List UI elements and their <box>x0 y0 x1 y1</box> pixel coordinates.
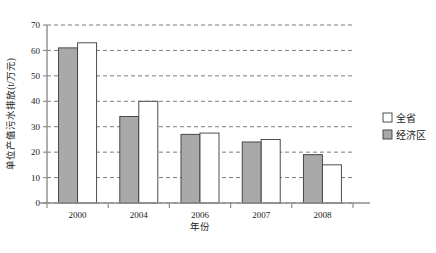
bar <box>322 165 341 203</box>
bar <box>200 133 219 203</box>
bar <box>120 117 139 203</box>
bar <box>181 134 200 203</box>
bar <box>261 139 280 203</box>
y-tick-label: 70 <box>31 20 41 30</box>
x-tick-label: 2000 <box>69 210 88 220</box>
x-tick-label: 2007 <box>252 210 271 220</box>
y-tick-label: 10 <box>31 173 41 183</box>
y-tick-label: 0 <box>36 198 41 208</box>
legend-label: 全省 <box>396 112 416 124</box>
legend-swatch <box>383 130 392 139</box>
y-tick-label: 30 <box>31 122 41 132</box>
bar <box>139 101 158 203</box>
y-tick-label: 20 <box>31 147 41 157</box>
y-tick-label: 60 <box>31 46 41 56</box>
bar <box>242 142 261 203</box>
x-tick-label: 2006 <box>191 210 210 220</box>
bar <box>78 43 97 203</box>
legend-label: 经济区 <box>396 129 426 141</box>
bar <box>303 155 322 203</box>
legend-swatch <box>383 113 392 122</box>
x-tick-label: 2008 <box>313 210 332 220</box>
bar <box>59 48 78 203</box>
x-axis-title: 年份 <box>190 221 210 232</box>
y-axis-title: 单位产值污水排放(t/万元) <box>5 58 17 170</box>
chart-container: 010203040506070 20002004200620072008 年份 … <box>0 0 436 253</box>
x-tick-label: 2004 <box>130 210 149 220</box>
y-tick-label: 40 <box>31 96 41 106</box>
bar-chart: 010203040506070 20002004200620072008 年份 … <box>0 0 436 253</box>
y-tick-label: 50 <box>31 71 41 81</box>
